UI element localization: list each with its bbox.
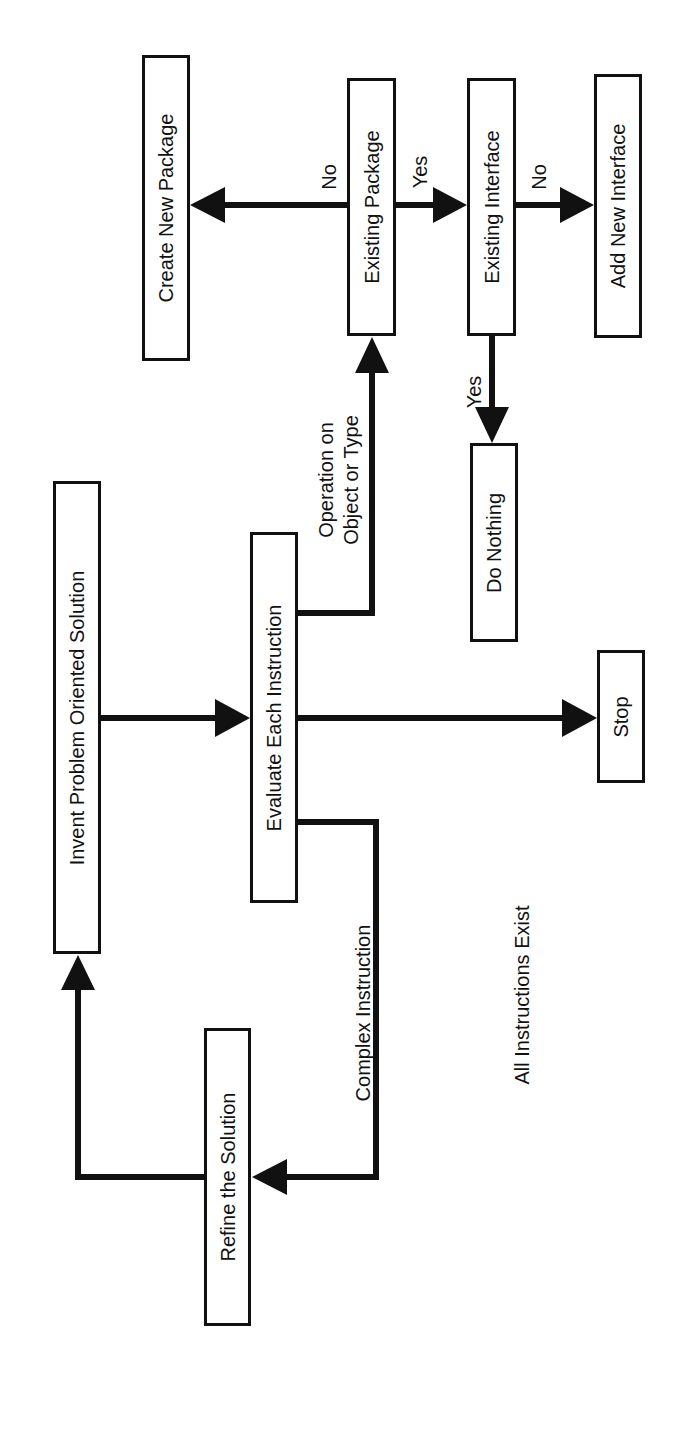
node-create-new-package: Create New Package: [142, 55, 190, 361]
node-label: Existing Package: [361, 130, 383, 283]
arrowhead-left-icon: [252, 1159, 287, 1195]
arrowhead-down-icon: [475, 407, 509, 443]
node-label: Create New Package: [155, 114, 177, 303]
arrowhead-right-icon: [433, 187, 467, 223]
node-existing-interface: Existing Interface: [467, 78, 516, 336]
node-add-new-interface: Add New Interface: [594, 74, 642, 338]
node-invent-problem-oriented-solution: Invent Problem Oriented Solution: [53, 481, 101, 954]
node-label: Invent Problem Oriented Solution: [66, 570, 88, 865]
node-label: Evaluate Each Instruction: [263, 604, 285, 831]
node-evaluate-each-instruction: Evaluate Each Instruction: [250, 532, 298, 903]
node-label: Do Nothing: [483, 492, 505, 592]
edge-label-operation-on-object-or-type: Operation on Object or Type: [314, 415, 364, 545]
arrowhead-right-icon: [562, 699, 597, 737]
node-label: Add New Interface: [607, 124, 629, 289]
edge-label-interface-no: No: [528, 164, 550, 190]
arrowhead-right-icon: [215, 699, 250, 737]
node-label: Existing Interface: [481, 130, 503, 283]
connectors-layer: [0, 0, 674, 1429]
edge-label-interface-yes: Yes: [463, 376, 485, 409]
arrowhead-up-icon: [61, 955, 95, 990]
edge-label-all-instructions-exist: All Instructions Exist: [511, 906, 533, 1085]
node-label: Refine the Solution: [217, 1092, 239, 1261]
node-existing-package: Existing Package: [347, 78, 396, 336]
node-stop: Stop: [597, 650, 645, 783]
node-do-nothing: Do Nothing: [470, 443, 518, 642]
node-label: Stop: [610, 696, 632, 737]
arrowhead-up-icon: [355, 337, 389, 373]
edge-label-complex-instruction: Complex Instruction: [352, 925, 374, 1102]
edge-label-package-yes: Yes: [409, 156, 431, 189]
node-refine-the-solution: Refine the Solution: [204, 1028, 251, 1326]
arrowhead-left-icon: [190, 187, 225, 223]
arrowhead-right-icon: [560, 187, 594, 223]
edge-label-package-no: No: [318, 164, 340, 190]
flowchart-canvas: Invent Problem Oriented Solution Evaluat…: [0, 0, 674, 1429]
edge-refine-invent: [78, 990, 204, 1177]
